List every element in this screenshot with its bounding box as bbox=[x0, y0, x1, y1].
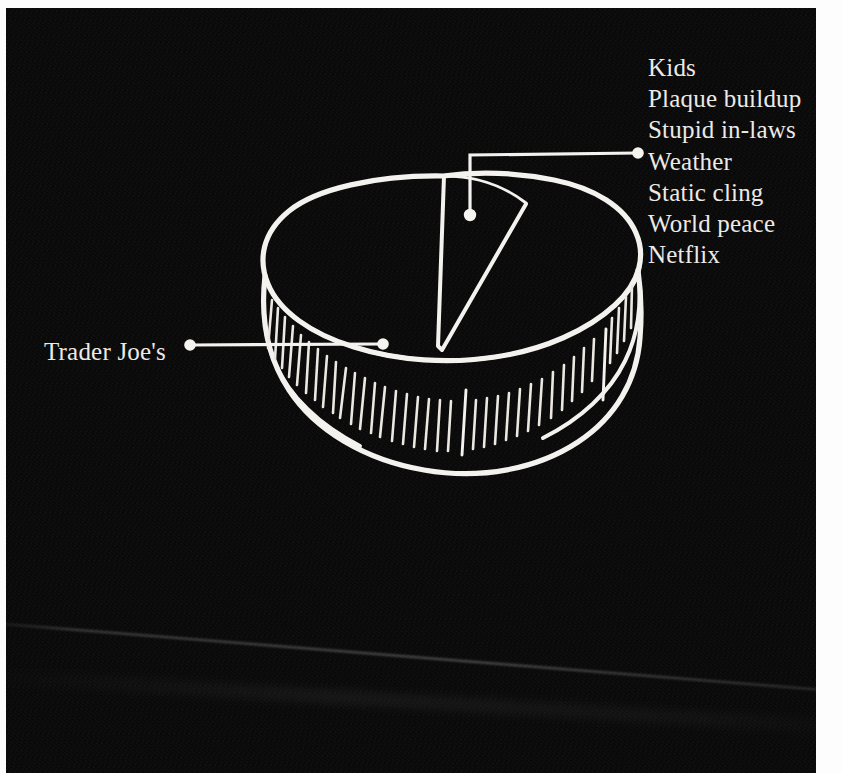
cylinder-wall-divider bbox=[462, 390, 466, 455]
legend-item-weather[interactable]: Weather bbox=[648, 146, 816, 177]
callout-dot-trader-joes-outer bbox=[184, 339, 196, 351]
cylinder-front-rim bbox=[268, 263, 640, 361]
chalkboard-canvas: Kids Plaque buildup Stupid in-laws Weath… bbox=[6, 8, 816, 773]
cylinder-bottom-arc bbox=[264, 270, 641, 474]
legend-item-world-peace[interactable]: World peace bbox=[648, 208, 816, 239]
legend-item-stupid-in-laws[interactable]: Stupid in-laws bbox=[648, 114, 816, 145]
callout-line-trader-joes bbox=[192, 344, 381, 345]
screenshot-root: Kids Plaque buildup Stupid in-laws Weath… bbox=[0, 0, 842, 773]
callout-dot-weather-outer bbox=[632, 147, 644, 159]
page-edge-right bbox=[816, 0, 842, 773]
callout-dot-trader-joes-inner bbox=[377, 338, 389, 350]
page-edge-left bbox=[0, 0, 6, 773]
pie-wedge-arc-weather bbox=[444, 176, 526, 203]
legend-item-static-cling[interactable]: Static cling bbox=[648, 177, 816, 208]
page-edge-top bbox=[0, 0, 842, 8]
legend: Kids Plaque buildup Stupid in-laws Weath… bbox=[648, 52, 816, 270]
callout-dot-weather-inner bbox=[464, 209, 476, 221]
legend-item-netflix[interactable]: Netflix bbox=[648, 239, 816, 270]
pie-wedge-weather bbox=[438, 176, 526, 350]
callout-label-trader-joes[interactable]: Trader Joe's bbox=[44, 337, 166, 367]
legend-item-kids[interactable]: Kids bbox=[648, 52, 816, 83]
legend-item-plaque-buildup[interactable]: Plaque buildup bbox=[648, 83, 816, 114]
